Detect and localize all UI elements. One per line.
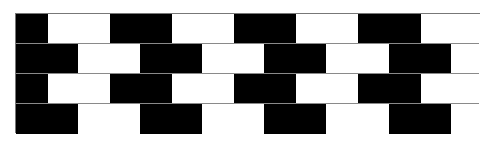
light-tile [202, 44, 264, 74]
dark-tile [16, 74, 48, 104]
light-tile [48, 14, 110, 44]
mortar-line [16, 103, 479, 104]
dark-tile [16, 104, 78, 134]
dark-tile [234, 14, 296, 44]
dark-tile [264, 44, 326, 74]
dark-tile [389, 104, 451, 134]
light-tile [326, 104, 389, 134]
light-tile [296, 14, 358, 44]
light-tile [202, 104, 264, 134]
light-tile [296, 74, 358, 104]
dark-tile [264, 104, 326, 134]
light-tile [172, 14, 234, 44]
cafe-wall-figure [15, 13, 480, 133]
dark-tile [389, 44, 451, 74]
light-tile [78, 104, 140, 134]
mortar-line [16, 73, 479, 74]
light-tile [451, 44, 481, 74]
light-tile [326, 44, 389, 74]
dark-tile [16, 44, 78, 74]
dark-tile [358, 14, 421, 44]
light-tile [78, 44, 140, 74]
dark-tile [234, 74, 296, 104]
light-tile [421, 14, 481, 44]
light-tile [451, 104, 481, 134]
dark-tile [16, 14, 48, 44]
light-tile [48, 74, 110, 104]
mortar-line [16, 43, 479, 44]
dark-tile [110, 74, 172, 104]
light-tile [172, 74, 234, 104]
dark-tile [140, 44, 202, 74]
dark-tile [140, 104, 202, 134]
dark-tile [110, 14, 172, 44]
light-tile [421, 74, 481, 104]
dark-tile [358, 74, 421, 104]
